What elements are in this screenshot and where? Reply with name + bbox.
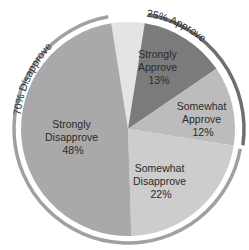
pie-chart: 25% Approve 70% Disapprove Strongly Appr… [0, 0, 249, 250]
